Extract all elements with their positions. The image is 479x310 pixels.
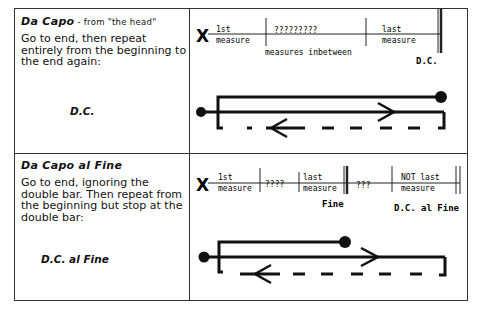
measure1-bottom: measure bbox=[216, 36, 250, 45]
notlast-top: NOT last bbox=[401, 173, 440, 182]
after-fine-questions: ??? bbox=[356, 181, 371, 190]
measure1-top: 1st bbox=[218, 173, 233, 182]
dc-flow-diagram bbox=[196, 91, 447, 137]
start-dot bbox=[196, 107, 206, 117]
last-bottom: measure bbox=[303, 184, 337, 193]
measure1-top: 1st bbox=[216, 25, 231, 34]
middle-questions: ????????? bbox=[274, 26, 318, 35]
last-top: last bbox=[303, 173, 322, 182]
fine-label: Fine bbox=[322, 199, 344, 209]
measure1-bottom: measure bbox=[218, 184, 252, 193]
fine-dot bbox=[339, 236, 351, 248]
dc-end-label: D.C. bbox=[416, 56, 438, 66]
notlast-bottom: measure bbox=[401, 184, 435, 193]
dc-al-fine-flow-diagram bbox=[199, 236, 446, 283]
start-x-marker: X bbox=[196, 26, 209, 46]
last-bottom: measure bbox=[382, 36, 416, 45]
dc-al-fine-end-label: D.C. al Fine bbox=[394, 203, 460, 213]
last-top: last bbox=[382, 25, 401, 34]
middle-questions: ???? bbox=[265, 180, 284, 189]
start-x-marker: X bbox=[196, 175, 209, 195]
middle-label: measures inbetween bbox=[265, 48, 352, 57]
end-dot bbox=[435, 91, 447, 103]
dc-staff: X 1st measure ????????? measures inbetwe… bbox=[196, 8, 441, 66]
dc-al-fine-staff: X 1st measure ???? last measure Fine ???… bbox=[196, 166, 460, 213]
start-dot bbox=[199, 252, 210, 263]
diagrams: X 1st measure ????????? measures inbetwe… bbox=[0, 0, 479, 310]
